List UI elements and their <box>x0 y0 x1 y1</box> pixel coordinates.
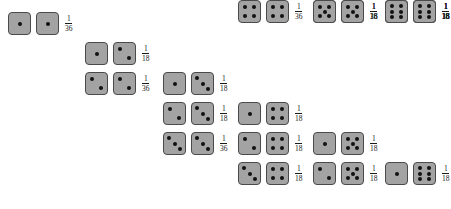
die-face-6 <box>385 0 408 23</box>
probability-fraction: 118 <box>294 165 304 182</box>
die-pip <box>418 177 422 181</box>
die-pip <box>323 142 327 146</box>
die-pip <box>280 5 284 9</box>
fraction-denominator: 18 <box>369 174 379 182</box>
probability-fraction: 118 <box>294 135 304 152</box>
die-pip <box>280 116 284 120</box>
die-pip <box>271 167 275 171</box>
probability-fraction: 136 <box>64 15 74 32</box>
dice-pair-row: 118 <box>313 132 379 155</box>
fraction-numerator: 1 <box>443 3 449 11</box>
die-pip <box>395 172 399 176</box>
die-face-2 <box>113 72 136 95</box>
die-pip <box>127 86 131 90</box>
die-pip <box>346 146 350 150</box>
die-pip <box>242 166 246 170</box>
die-face-5 <box>341 132 364 155</box>
die-face-1 <box>238 102 261 125</box>
die-pip <box>95 52 99 56</box>
probability-fraction: 118 <box>369 165 379 182</box>
fraction-denominator: 36 <box>369 12 379 20</box>
die-pip <box>243 137 247 141</box>
dice-pair-row: 136 <box>163 132 229 155</box>
die-pip <box>201 82 205 86</box>
die-face-3 <box>163 132 186 155</box>
die-pip <box>271 14 275 18</box>
die-pip <box>427 172 431 176</box>
die-face-2 <box>163 102 186 125</box>
die-face-1 <box>85 42 108 65</box>
die-pip <box>252 14 256 18</box>
fraction-numerator: 1 <box>296 3 302 11</box>
probability-fraction: 118 <box>441 165 451 182</box>
die-pip <box>280 167 284 171</box>
probability-fraction: 136 <box>369 3 379 20</box>
die-pip <box>271 146 275 150</box>
die-pip <box>206 117 210 121</box>
die-pip <box>390 4 394 8</box>
probability-fraction: 118 <box>219 75 229 92</box>
die-face-3 <box>191 102 214 125</box>
die-pip <box>90 77 94 81</box>
die-pip <box>195 76 199 80</box>
fraction-numerator: 1 <box>443 165 449 173</box>
dice-pair-row: 136 <box>85 72 151 95</box>
die-face-1 <box>313 132 336 155</box>
die-pip <box>127 56 131 60</box>
fraction-denominator: 18 <box>219 114 229 122</box>
die-pip <box>168 107 172 111</box>
die-pip <box>427 166 431 170</box>
die-pip <box>418 10 422 14</box>
dice-pair-row: 118 <box>163 72 229 95</box>
die-pip <box>390 10 394 14</box>
die-pip <box>201 142 205 146</box>
die-face-5 <box>313 0 336 23</box>
die-pip <box>18 22 22 26</box>
die-pip <box>355 137 359 141</box>
die-pip <box>323 10 327 14</box>
fraction-denominator: 18 <box>294 114 304 122</box>
fraction-numerator: 1 <box>66 15 72 23</box>
dice-pair-row: 136 <box>238 0 304 23</box>
die-face-6 <box>413 0 436 23</box>
die-pip <box>318 167 322 171</box>
die-face-3 <box>238 162 261 185</box>
probability-fraction: 118 <box>141 45 151 62</box>
fraction-numerator: 1 <box>371 165 377 173</box>
dice-pair-row: 136 <box>313 0 379 23</box>
fraction-denominator: 36 <box>141 84 151 92</box>
dice-pair-row: 118 <box>163 102 229 125</box>
die-pip <box>167 136 171 140</box>
die-pip <box>355 5 359 9</box>
die-pip <box>206 147 210 151</box>
die-pip <box>46 22 50 26</box>
die-pip <box>201 112 205 116</box>
fraction-numerator: 1 <box>221 75 227 83</box>
die-pip <box>99 86 103 90</box>
die-pip <box>248 112 252 116</box>
probability-fraction: 136 <box>141 75 151 92</box>
fraction-numerator: 1 <box>296 135 302 143</box>
die-pip <box>418 15 422 19</box>
die-pip <box>346 167 350 171</box>
fraction-denominator: 36 <box>294 12 304 20</box>
fraction-numerator: 1 <box>371 3 377 11</box>
dice-pair-row: 118 <box>85 42 151 65</box>
die-face-5 <box>341 162 364 185</box>
die-pip <box>346 137 350 141</box>
die-pip <box>118 47 122 51</box>
die-pip <box>399 15 403 19</box>
die-pip <box>318 5 322 9</box>
die-pip <box>248 172 252 176</box>
die-pip <box>418 4 422 8</box>
dice-pair-row: 118 <box>313 162 379 185</box>
die-pip <box>318 14 322 18</box>
die-pip <box>399 4 403 8</box>
die-pip <box>355 176 359 180</box>
die-face-4 <box>266 0 289 23</box>
die-pip <box>346 5 350 9</box>
fraction-denominator: 18 <box>141 54 151 62</box>
probability-fraction: 118 <box>294 105 304 122</box>
die-pip <box>355 146 359 150</box>
